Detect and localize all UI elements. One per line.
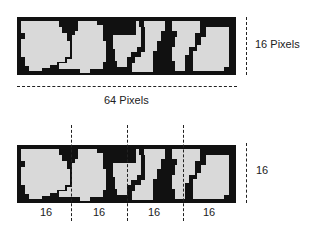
bitmap-strip-top (17, 17, 236, 75)
height-dimension-line-bottom (246, 143, 247, 203)
segment-label-1: 16 (40, 206, 52, 218)
glyph-bitmap (17, 17, 236, 75)
height-label-bottom: 16 (256, 164, 268, 176)
segment-divider-2 (127, 125, 128, 221)
width-dimension-line (17, 86, 237, 87)
segment-label-2: 16 (93, 206, 105, 218)
height-label-top: 16 Pixels (255, 38, 300, 50)
segment-divider-1 (71, 125, 72, 221)
width-label: 64 Pixels (104, 94, 149, 106)
segment-label-3: 16 (148, 206, 160, 218)
height-dimension-line (246, 17, 247, 75)
segment-divider-3 (183, 125, 184, 221)
segment-label-4: 16 (203, 206, 215, 218)
